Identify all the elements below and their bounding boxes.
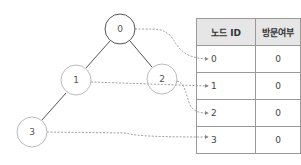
cell-node-id: 0 [197, 46, 256, 73]
node-1: 1 [61, 65, 91, 95]
header-visited: 방문여부 [256, 19, 301, 46]
visit-table: 노드 ID 방문여부 0 0 1 0 2 0 3 0 [196, 18, 301, 154]
edge-1-3 [42, 93, 66, 120]
table-row: 0 0 [197, 46, 301, 73]
cell-visited: 0 [256, 100, 301, 127]
svg-text:1: 1 [73, 75, 79, 85]
node-3: 3 [17, 117, 47, 147]
arrow-node-3 [47, 132, 208, 137]
table-row: 2 0 [197, 100, 301, 127]
svg-text:0: 0 [117, 24, 123, 34]
header-node-id: 노드 ID [197, 19, 256, 46]
table-header-row: 노드 ID 방문여부 [197, 19, 301, 46]
arrow-node-1 [91, 82, 208, 86]
cell-node-id: 2 [197, 100, 256, 127]
edge-0-2 [130, 41, 152, 67]
svg-text:2: 2 [159, 74, 165, 84]
table-row: 3 0 [197, 127, 301, 154]
node-0: 0 [105, 14, 135, 44]
cell-node-id: 1 [197, 73, 256, 100]
node-2: 2 [147, 64, 177, 94]
table-row: 1 0 [197, 73, 301, 100]
cell-visited: 0 [256, 73, 301, 100]
svg-text:3: 3 [29, 127, 35, 137]
cell-visited: 0 [256, 127, 301, 154]
cell-visited: 0 [256, 46, 301, 73]
edge-0-1 [86, 41, 110, 68]
cell-node-id: 3 [197, 127, 256, 154]
